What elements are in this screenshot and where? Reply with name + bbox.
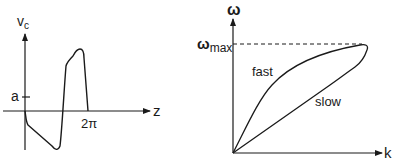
slow-label: slow <box>315 95 341 108</box>
vc-axis-label: vc <box>17 14 29 28</box>
two-pi-tick-label: 2π <box>81 117 97 130</box>
z-axis-label: z <box>153 103 161 118</box>
vc-subscript: c <box>24 20 29 31</box>
fast-branch-curve <box>233 45 368 153</box>
omega-max-subscript: max <box>210 41 233 55</box>
fast-label: fast <box>252 65 273 78</box>
omega-max-symbol: ω <box>197 35 210 52</box>
diagram-canvas <box>0 0 394 164</box>
omega-axis-label: ω <box>227 2 241 18</box>
left-plot <box>3 34 150 150</box>
omega-max-label: ωmax <box>197 36 232 51</box>
right-plot <box>233 19 382 153</box>
vc-symbol: v <box>17 13 24 29</box>
vc-waveform-curve <box>25 49 88 149</box>
a-tick-label: a <box>11 89 19 103</box>
k-axis-label: k <box>384 145 392 160</box>
